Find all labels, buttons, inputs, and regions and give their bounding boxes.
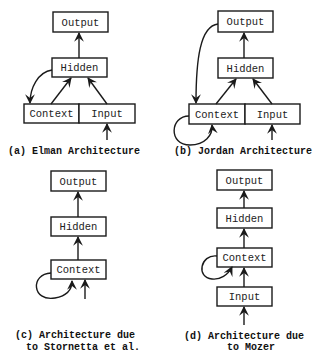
caption-b: (b) Jordan Architecture [174,146,312,157]
node-hidden: Hidden [51,217,106,236]
edge-context-hidden [216,79,236,104]
svg-text:Hidden: Hidden [227,63,265,75]
node-input: Input [217,287,272,306]
node-context: Context [189,104,245,124]
svg-text:Output: Output [62,17,100,29]
panel-a-elman: Output Hidden Context Input (a) Elman Ar… [8,12,140,157]
node-hidden: Hidden [52,58,107,77]
node-output: Output [217,170,272,190]
node-context: Context [24,104,79,123]
caption-d-line2: to Mozer [227,342,275,353]
svg-text:Input: Input [257,109,289,121]
svg-text:Output: Output [227,16,265,28]
caption-c-line1: (c) Architecture due [15,330,135,341]
svg-text:Hidden: Hidden [61,62,99,74]
node-output: Output [53,12,108,32]
edge-input-hidden [253,79,272,104]
svg-text:Context: Context [56,264,100,276]
svg-text:Input: Input [91,108,123,120]
edge-input-hidden [88,78,107,104]
recurrent-architectures-diagram: Output Hidden Context Input (a) Elman Ar… [0,0,328,362]
node-hidden: Hidden [218,58,273,78]
panel-d-mozer: Output Hidden Context Input (d) Architec… [184,170,304,353]
node-hidden: Hidden [217,208,272,228]
node-context: Context [51,260,106,279]
node-input: Input [79,104,135,123]
panel-b-jordan: Output Hidden Context Input (b) Jordan A… [174,11,312,157]
node-context: Context [217,248,272,267]
node-output: Output [51,171,106,191]
node-output: Output [218,11,273,32]
node-input: Input [245,104,300,124]
caption-a: (a) Elman Architecture [8,146,140,157]
panel-c-stornetta: Output Hidden Context (c) Architecture d… [15,171,140,353]
svg-text:Hidden: Hidden [60,221,98,233]
svg-text:Context: Context [222,252,266,264]
svg-text:Context: Context [29,108,73,120]
edge-hidden-context [30,70,52,103]
caption-d-line1: (d) Architecture due [184,331,304,342]
svg-text:Context: Context [195,109,239,121]
edge-context-hidden [51,78,71,104]
svg-text:Output: Output [226,175,264,187]
svg-text:Hidden: Hidden [226,213,264,225]
svg-text:Input: Input [229,291,261,303]
svg-text:Output: Output [60,176,98,188]
edge-output-context [196,24,218,103]
caption-c-line2: to Stornetta et al. [26,342,140,353]
